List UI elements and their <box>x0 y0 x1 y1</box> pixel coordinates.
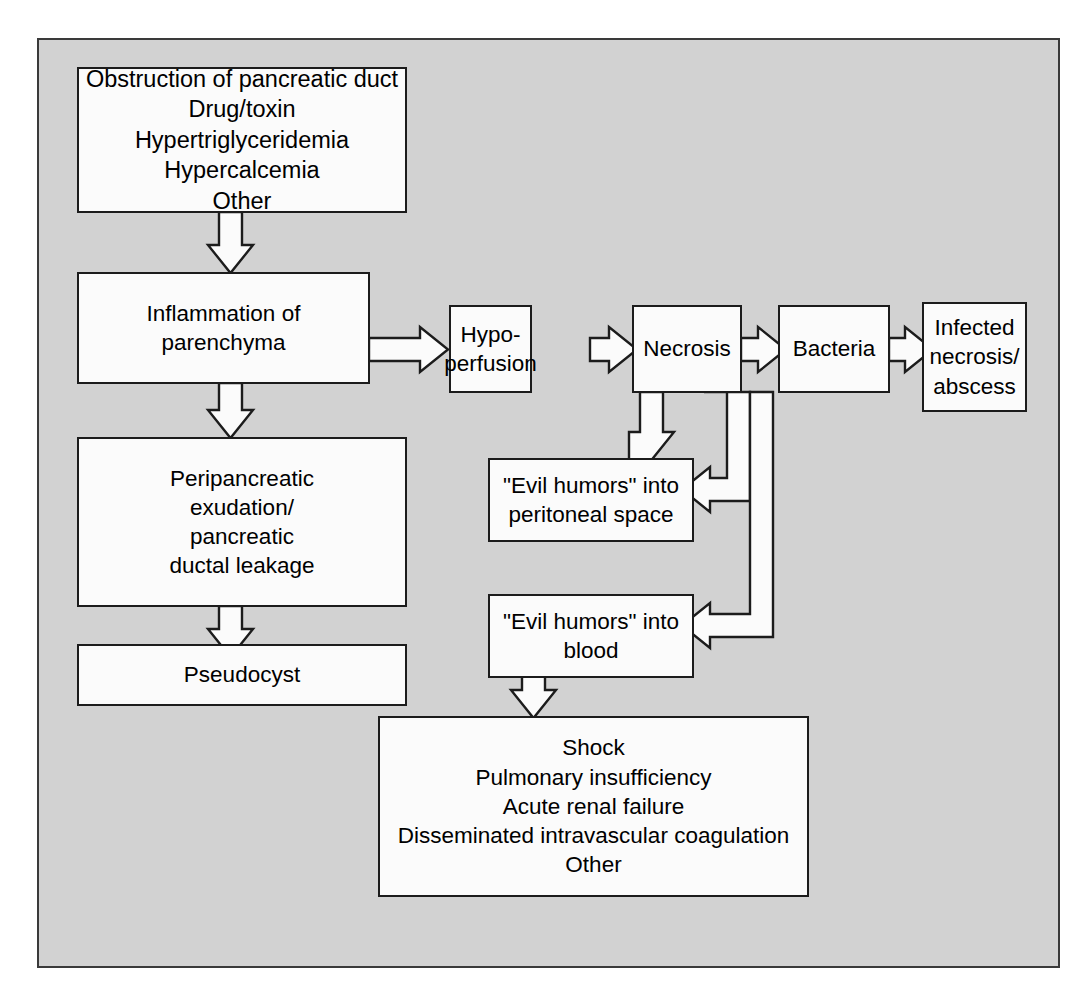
arrow-etiologies-to-inflammation <box>208 212 253 273</box>
node-systemic-complications[interactable]: Shock Pulmonary insufficiency Acute rena… <box>378 716 809 897</box>
node-evil-humors-blood[interactable]: "Evil humors" into blood <box>488 594 694 678</box>
flowchart-canvas: Obstruction of pancreatic duct Drug/toxi… <box>0 0 1087 993</box>
node-etiologies[interactable]: Obstruction of pancreatic duct Drug/toxi… <box>77 67 407 213</box>
arrow-inflammation-to-hypoperfusion <box>369 327 448 372</box>
arrow-hypoperfusion-to-necrosis <box>590 327 637 372</box>
node-hypoperfusion[interactable]: Hypo- perfusion <box>449 305 532 393</box>
node-peripancreatic-exudation[interactable]: Peripancreatic exudation/ pancreatic duc… <box>77 437 407 607</box>
arrow-necrosis-to-evil-humors-peritoneal-down <box>629 392 674 460</box>
node-pseudocyst[interactable]: Pseudocyst <box>77 644 407 706</box>
node-necrosis[interactable]: Necrosis <box>632 305 742 393</box>
arrow-inflammation-to-exudation <box>208 383 253 438</box>
node-bacteria[interactable]: Bacteria <box>778 305 890 393</box>
node-inflammation[interactable]: Inflammation of parenchyma <box>77 272 370 384</box>
node-infected-necrosis[interactable]: Infected necrosis/ abscess <box>922 302 1027 412</box>
node-evil-humors-peritoneal[interactable]: "Evil humors" into peritoneal space <box>488 458 694 542</box>
diagram-panel: Obstruction of pancreatic duct Drug/toxi… <box>37 38 1060 968</box>
